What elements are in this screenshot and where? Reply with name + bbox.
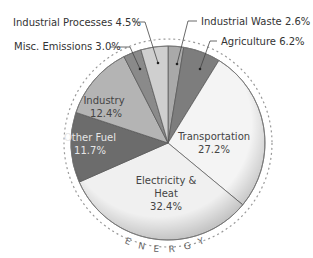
svg-text:R: R	[168, 244, 175, 254]
svg-text:E: E	[124, 236, 133, 248]
svg-text:Y: Y	[196, 235, 206, 247]
svg-text:N: N	[137, 240, 146, 251]
label-agriculture: Agriculture 6.2%	[221, 36, 305, 47]
label-industry-value: 12.4%	[90, 108, 122, 119]
pie-chart: Industrial Processes 4.5% Misc. Emission…	[0, 0, 313, 258]
label-industrial-processes: Industrial Processes 4.5%	[13, 17, 141, 28]
label-transportation-value: 27.2%	[198, 144, 230, 155]
label-electricity-line1: Electricity &	[136, 175, 197, 186]
label-industrial-waste: Industrial Waste 2.6%	[201, 16, 310, 27]
label-electricity-line2: Heat	[154, 188, 178, 199]
svg-text:E: E	[153, 244, 160, 254]
label-transportation-name: Transportation	[177, 131, 250, 142]
label-misc-emissions: Misc. Emissions 3.0%	[14, 41, 121, 52]
label-other-fuel-value: 11.7%	[74, 145, 106, 156]
label-electricity-value: 32.4%	[150, 201, 182, 212]
label-industry-name: Industry	[83, 95, 124, 106]
label-other-fuel-name: Other Fuel	[64, 132, 116, 143]
svg-text:G: G	[183, 240, 192, 251]
